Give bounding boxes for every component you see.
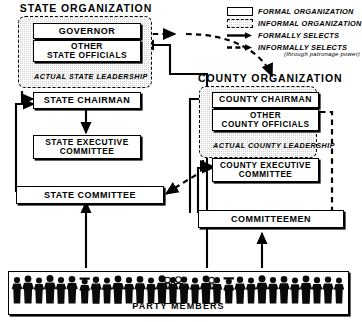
legend-informally-selects-note: (through patronage power): [284, 51, 357, 57]
state-committee-label: STATE COMMITTEE: [44, 190, 136, 200]
legend: FORMAL ORGANIZATION INFORMAL ORGANIZATIO…: [227, 6, 357, 57]
county-exec-line2: COMMITTEE: [239, 170, 293, 179]
county-chairman-label: COUNTY CHAIRMAN: [219, 95, 312, 105]
county-organization-title: COUNTY ORGANIZATION: [198, 72, 340, 84]
legend-formal-label: FORMAL ORGANIZATION: [258, 7, 354, 16]
governor-label: GOVERNOR: [59, 26, 116, 36]
actual-county-leadership-label: ACTUAL COUNTY LEADERSHIP: [213, 141, 331, 150]
party-members-box[interactable]: PARTY MEMBERS: [8, 271, 349, 315]
arrow-state-committee-to-chairman: [16, 104, 34, 192]
state-executive-committee-box[interactable]: STATE EXECUTIVE COMMITTEE: [33, 135, 141, 159]
dashed-arrow-icon: [227, 43, 253, 52]
formal-organization-swatch: [227, 7, 253, 16]
party-members-label: PARTY MEMBERS: [9, 301, 348, 311]
state-chairman-box[interactable]: STATE CHAIRMAN: [33, 92, 141, 109]
state-organization-title: STATE ORGANIZATION: [17, 2, 155, 14]
county-chairman-box[interactable]: COUNTY CHAIRMAN: [212, 92, 319, 108]
governor-box[interactable]: GOVERNOR: [33, 23, 141, 39]
county-exec-line1: COUNTY EXECUTIVE: [220, 161, 311, 170]
actual-state-leadership-label: ACTUAL STATE LEADERSHIP: [34, 72, 152, 81]
other-state-officials-line2: STATE OFFICIALS: [47, 51, 127, 60]
other-county-officials-line1: OTHER: [250, 111, 281, 120]
other-county-officials-line2: COUNTY OFFICIALS: [222, 120, 310, 129]
other-state-officials-box[interactable]: OTHER STATE OFFICIALS: [33, 40, 141, 62]
committeemen-box[interactable]: COMMITTEEMEN: [198, 210, 344, 228]
legend-row-informal: INFORMAL ORGANIZATION: [227, 18, 357, 29]
dashed-county-exec-to-state-committee: [166, 175, 196, 194]
solid-arrow-icon: [227, 31, 253, 40]
county-executive-committee-box[interactable]: COUNTY EXECUTIVE COMMITTEE: [212, 158, 319, 182]
legend-row-formal: FORMAL ORGANIZATION: [227, 6, 357, 17]
state-exec-line2: COMMITTEE: [60, 147, 115, 156]
other-county-officials-box[interactable]: OTHER COUNTY OFFICIALS: [212, 109, 319, 131]
legend-row-formally-selects: FORMALLY SELECTS: [227, 30, 357, 41]
committeemen-label: COMMITTEEMEN: [231, 214, 311, 224]
legend-informal-label: INFORMAL ORGANIZATION: [258, 19, 362, 28]
state-committee-box[interactable]: STATE COMMITTEE: [16, 186, 164, 204]
informal-organization-swatch: [227, 19, 253, 28]
arrow-committeemen-to-county-exec: [198, 168, 213, 213]
legend-formally-selects-label: FORMALLY SELECTS: [258, 31, 339, 40]
state-chairman-label: STATE CHAIRMAN: [44, 95, 131, 105]
